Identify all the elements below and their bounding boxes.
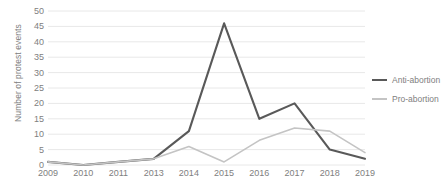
- plot-area: [48, 11, 365, 165]
- legend-item[interactable]: Anti-abortion: [372, 72, 442, 88]
- y-tick-label: 50: [22, 6, 44, 16]
- chart-legend: Anti-abortionPro-abortion: [372, 72, 442, 110]
- y-tick-label: 15: [22, 114, 44, 124]
- legend-label: Pro-abortion: [392, 94, 439, 104]
- x-tick-label: 2017: [285, 168, 305, 178]
- x-tick-label: 2016: [249, 168, 269, 178]
- legend-label: Anti-abortion: [392, 75, 440, 85]
- legend-line-swatch: [372, 98, 387, 100]
- gridlines: [48, 11, 365, 165]
- y-tick-label: 35: [22, 52, 44, 62]
- line-chart: Number of protest events 051015202530354…: [0, 0, 442, 196]
- x-tick-label: 2011: [109, 168, 128, 178]
- legend-line-swatch: [372, 79, 387, 81]
- series-line: [48, 23, 365, 165]
- plot-svg: [48, 11, 365, 165]
- x-tick-label: 2019: [355, 168, 375, 178]
- y-tick-label: 45: [22, 21, 44, 31]
- series-lines: [48, 23, 365, 165]
- y-tick-label: 10: [22, 129, 44, 139]
- y-tick-label: 40: [22, 37, 44, 47]
- x-tick-label: 2013: [144, 168, 164, 178]
- y-tick-label: 25: [22, 83, 44, 93]
- x-tick-label: 2015: [214, 168, 234, 178]
- x-tick-label: 2018: [320, 168, 340, 178]
- x-tick-label: 2014: [179, 168, 199, 178]
- y-axis-tick-labels: 05101520253035404550: [22, 0, 44, 196]
- x-tick-label: 2010: [73, 168, 93, 178]
- y-tick-label: 30: [22, 68, 44, 78]
- x-axis-tick-labels: 2009201020112013201420152016201720182019: [48, 168, 365, 184]
- legend-item[interactable]: Pro-abortion: [372, 91, 442, 107]
- y-tick-label: 20: [22, 98, 44, 108]
- x-tick-label: 2009: [38, 168, 58, 178]
- y-tick-label: 5: [22, 145, 44, 155]
